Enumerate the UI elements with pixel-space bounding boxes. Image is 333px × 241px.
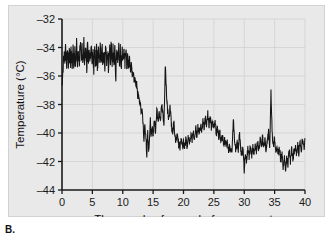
y-tick-label: –44 xyxy=(37,184,55,196)
x-tick-label: 40 xyxy=(299,196,311,208)
y-axis-ticks: –32–34–36–38–40–42–44 xyxy=(37,13,62,196)
y-tick-label: –36 xyxy=(37,70,55,82)
temperature-line-chart: –32–34–36–38–40–42–44 0510152025303540 T… xyxy=(8,5,325,217)
x-tick-label: 5 xyxy=(89,196,95,208)
figure-caption-label: B. xyxy=(5,224,15,235)
y-tick-label: –40 xyxy=(37,127,55,139)
gridlines xyxy=(62,19,305,190)
x-tick-label: 25 xyxy=(208,196,220,208)
x-axis-ticks: 0510152025303540 xyxy=(59,190,311,208)
figure-panel-b: –32–34–36–38–40–42–44 0510152025303540 T… xyxy=(0,0,333,241)
x-axis-title: Thousands of years before present xyxy=(94,213,273,217)
x-tick-label: 35 xyxy=(269,196,281,208)
x-tick-label: 20 xyxy=(177,196,189,208)
y-axis-title: Temperature (°C) xyxy=(14,60,26,148)
y-tick-label: –38 xyxy=(37,99,55,111)
x-tick-label: 0 xyxy=(59,196,65,208)
y-tick-label: –32 xyxy=(37,13,55,25)
x-tick-label: 30 xyxy=(238,196,250,208)
x-tick-label: 10 xyxy=(117,196,129,208)
y-tick-label: –42 xyxy=(37,156,55,168)
y-tick-label: –34 xyxy=(37,42,55,54)
x-tick-label: 15 xyxy=(147,196,159,208)
